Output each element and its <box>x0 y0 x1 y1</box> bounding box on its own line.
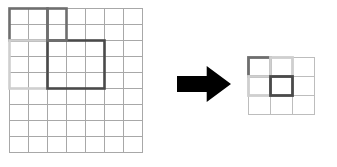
transform-arrow <box>177 66 231 106</box>
light-gray-cell-left <box>249 77 271 96</box>
light-gray-cell-top <box>271 58 293 77</box>
diagram-canvas <box>0 0 337 167</box>
result-grid-svg <box>244 53 318 118</box>
source-grid-svg <box>5 4 146 156</box>
source-grid <box>5 4 146 156</box>
black-cell <box>271 77 293 96</box>
black-region <box>48 41 105 89</box>
dark-gray-cell <box>249 58 271 77</box>
right-arrow-shape <box>177 66 231 102</box>
result-grid <box>244 53 318 118</box>
right-arrow-icon <box>177 66 231 102</box>
